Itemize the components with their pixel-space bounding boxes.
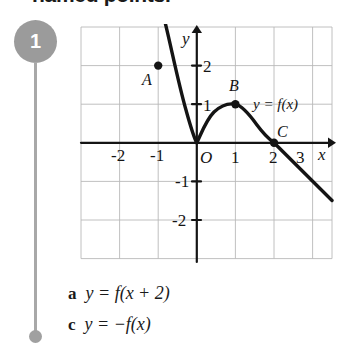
y-axis-label: y (180, 29, 190, 48)
point-b-marker (231, 100, 239, 108)
point-c-label: C (277, 123, 288, 140)
curve-equation-label: y = f(x) (251, 96, 298, 113)
function-curve (165, 24, 333, 201)
question-number-label: 1 (14, 20, 57, 63)
x-tick-label-2: 2 (269, 148, 278, 167)
function-graph: A B C y x O 2 1 -1 -2 -2 -1 1 2 3 y = f(… (78, 24, 336, 269)
question-stem-end-dot (29, 330, 42, 343)
point-a-marker (154, 61, 162, 69)
x-tick-label-1: 1 (231, 148, 240, 167)
part-c-expression: y = −f(x) (85, 314, 151, 334)
y-tick-label-neg2: -2 (172, 211, 186, 230)
part-c-letter: c (68, 315, 76, 334)
origin-label: O (200, 148, 212, 167)
y-tick-label-neg1: -1 (175, 172, 189, 191)
page-heading-clip: named points. (0, 0, 349, 16)
part-a-expression: y = f(x + 2) (86, 283, 170, 303)
point-b-label: B (229, 77, 239, 94)
x-tick-label-neg1: -1 (150, 146, 164, 165)
question-stem-line (34, 62, 37, 335)
part-a-letter: a (68, 284, 77, 303)
x-tick-label-3: 3 (296, 148, 305, 167)
part-a: ay = f(x + 2) (68, 283, 170, 304)
x-tick-label-neg2: -2 (111, 146, 125, 165)
x-axis-label: x (317, 145, 326, 164)
part-c: cy = −f(x) (68, 314, 151, 335)
page-heading: named points. (32, 0, 170, 7)
point-a-label: A (141, 71, 152, 88)
question-number-badge: 1 (14, 20, 57, 63)
y-tick-label-2: 2 (203, 57, 212, 76)
y-tick-label-1: 1 (203, 96, 212, 115)
